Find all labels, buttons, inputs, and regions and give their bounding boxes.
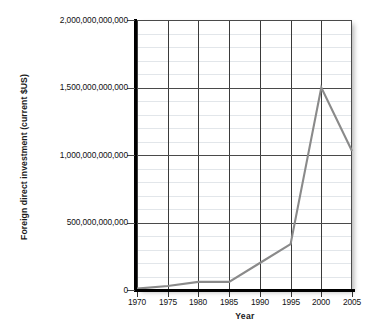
x-axis-tick-label: 1970 [121, 297, 153, 307]
x-axis-tick-label: 1985 [213, 297, 245, 307]
y-axis-tick [127, 20, 135, 21]
y-axis-tick-label: 0 [123, 285, 128, 295]
plot-area [137, 20, 352, 290]
y-axis-tick-label: 500,000,000,000 [67, 217, 128, 227]
x-axis-tick-label: 2005 [336, 297, 366, 307]
y-axis-tick [127, 155, 135, 156]
y-axis-tick-label: 1,500,000,000,000 [60, 82, 128, 92]
data-line-layer [137, 20, 352, 290]
y-axis-title: Foreign direct investment (current $US) [19, 27, 29, 287]
chart-figure: Foreign direct investment (current $US) … [0, 0, 366, 328]
y-axis-tick [127, 290, 135, 291]
y-axis-tick-label: 2,000,000,000,000 [60, 15, 128, 25]
x-axis-tick-label: 1975 [152, 297, 184, 307]
y-axis-tick [127, 223, 135, 224]
x-axis-title: Year [137, 311, 353, 321]
x-axis-tick-label: 1995 [275, 297, 307, 307]
y-axis-tick-label: 1,000,000,000,000 [60, 150, 128, 160]
y-axis-tick [127, 88, 135, 89]
x-axis-tick-label: 1990 [244, 297, 276, 307]
x-axis-tick-label: 2000 [305, 297, 337, 307]
data-line-series [137, 88, 352, 289]
x-axis-tick-label: 1980 [182, 297, 214, 307]
